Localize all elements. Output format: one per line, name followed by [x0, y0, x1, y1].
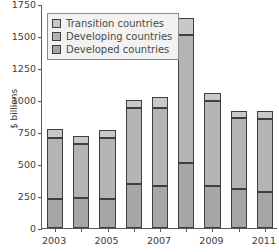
- bar-2011: [257, 4, 273, 228]
- x-tick-mark: [134, 228, 135, 232]
- y-tick-mark: [38, 101, 42, 102]
- bar-segment-transition-countries: [204, 93, 220, 101]
- bar-segment-developing-countries: [47, 138, 63, 199]
- bar-2010: [231, 4, 247, 228]
- y-tick-mark: [38, 5, 42, 6]
- y-axis-tick-labels: 02505007501000125015001750: [0, 0, 36, 252]
- bar-segment-transition-countries: [257, 111, 273, 119]
- bar-2009: [204, 4, 220, 228]
- x-tick-label: 2007: [144, 236, 174, 246]
- legend-item: Transition countries: [52, 17, 172, 30]
- bar-segment-developing-countries: [152, 108, 168, 185]
- chart-legend: Transition countriesDeveloping countries…: [47, 13, 179, 60]
- y-tick-label: 0: [4, 224, 36, 234]
- bar-segment-transition-countries: [99, 130, 115, 138]
- legend-swatch-developing: [52, 32, 61, 41]
- y-tick-mark: [38, 165, 42, 166]
- y-tick-mark: [38, 197, 42, 198]
- y-tick-label: 750: [4, 128, 36, 138]
- y-tick-label: 500: [4, 160, 36, 170]
- y-tick-mark: [38, 37, 42, 38]
- legend-swatch-transition: [52, 19, 61, 28]
- y-tick-mark: [38, 229, 42, 230]
- legend-item: Developing countries: [52, 30, 172, 43]
- bar-segment-developed-countries: [126, 184, 142, 228]
- x-tick-label: 2003: [39, 236, 69, 246]
- legend-item-label: Developed countries: [66, 44, 169, 55]
- bar-segment-transition-countries: [152, 97, 168, 108]
- x-tick-mark: [55, 228, 56, 232]
- bar-segment-developing-countries: [99, 138, 115, 199]
- x-tick-mark: [212, 228, 213, 232]
- bar-segment-developed-countries: [178, 163, 194, 228]
- x-tick-mark: [265, 228, 266, 232]
- x-tick-label: 2005: [92, 236, 122, 246]
- legend-item: Developed countries: [52, 43, 172, 56]
- bar-segment-developing-countries: [204, 101, 220, 187]
- bar-segment-developed-countries: [99, 199, 115, 228]
- bar-segment-developed-countries: [231, 189, 247, 228]
- y-tick-label: 1250: [4, 64, 36, 74]
- bar-segment-developing-countries: [73, 144, 89, 198]
- y-tick-mark: [38, 69, 42, 70]
- bar-segment-transition-countries: [73, 136, 89, 144]
- bar-2008: [178, 4, 194, 228]
- y-tick-label: 1750: [4, 0, 36, 10]
- bar-segment-developing-countries: [126, 108, 142, 184]
- x-tick-label: 2009: [196, 236, 226, 246]
- bar-segment-transition-countries: [47, 129, 63, 138]
- y-tick-label: 1000: [4, 96, 36, 106]
- x-tick-mark: [108, 228, 109, 232]
- stacked-bar-chart: $ billions 02505007501000125015001750 20…: [0, 0, 279, 252]
- legend-item-label: Developing countries: [66, 31, 172, 42]
- x-tick-mark: [81, 228, 82, 232]
- bar-segment-transition-countries: [231, 111, 247, 118]
- bar-segment-developed-countries: [204, 186, 220, 228]
- bar-segment-developing-countries: [178, 35, 194, 164]
- bar-segment-developed-countries: [257, 192, 273, 228]
- x-tick-mark: [239, 228, 240, 232]
- y-tick-label: 1500: [4, 32, 36, 42]
- y-tick-label: 250: [4, 192, 36, 202]
- x-tick-mark: [160, 228, 161, 232]
- x-tick-mark: [186, 228, 187, 232]
- legend-swatch-developed: [52, 45, 61, 54]
- x-tick-label: 2011: [249, 236, 279, 246]
- bar-segment-developed-countries: [73, 198, 89, 228]
- bar-segment-developing-countries: [231, 118, 247, 189]
- bar-segment-developed-countries: [152, 186, 168, 228]
- bar-segment-developed-countries: [47, 199, 63, 228]
- legend-item-label: Transition countries: [66, 18, 164, 29]
- bar-segment-transition-countries: [178, 18, 194, 35]
- bar-segment-transition-countries: [126, 100, 142, 108]
- y-tick-mark: [38, 133, 42, 134]
- bar-segment-developing-countries: [257, 119, 273, 193]
